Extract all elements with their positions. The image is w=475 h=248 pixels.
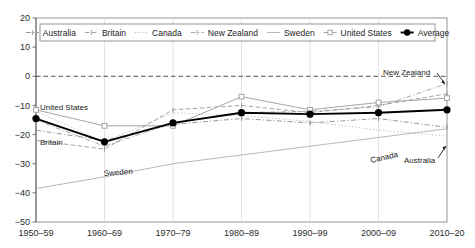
line-chart: 20100−10−20−30−40−501950–591960–691970–7… <box>0 0 475 248</box>
annotation-label: United States <box>40 103 88 112</box>
legend-marker <box>328 30 332 34</box>
y-tick-label: 20 <box>20 13 30 23</box>
legend-item-australia[interactable]: Australia <box>26 28 76 38</box>
x-tick-label: 1960–69 <box>87 228 122 238</box>
y-tick-label: 10 <box>20 42 30 52</box>
legend: AustraliaBritainCanadaNew ZealandSwedenU… <box>26 24 450 41</box>
x-tick-label: 2010–20 <box>429 228 464 238</box>
data-point <box>238 109 245 116</box>
legend-label: Canada <box>152 28 182 38</box>
y-tick-label: −20 <box>15 130 30 140</box>
chart-container: 20100−10−20−30−40−501950–591960–691970–7… <box>0 0 475 248</box>
annotation-label: Australia <box>404 156 436 165</box>
x-tick-label: 1990–99 <box>292 228 327 238</box>
data-point <box>102 123 107 128</box>
data-point <box>443 106 450 113</box>
x-tick-label: 1970–79 <box>155 228 190 238</box>
x-tick-label: 1980–89 <box>224 228 259 238</box>
legend-label: Britain <box>102 28 126 38</box>
legend-label: United States <box>341 28 392 38</box>
data-point <box>169 119 176 126</box>
data-point <box>32 115 39 122</box>
y-tick-label: −10 <box>15 101 30 111</box>
x-axis-ticks: 1950–591960–691970–791980–891990–992000–… <box>18 228 464 238</box>
y-tick-label: 0 <box>25 71 30 81</box>
x-tick-label: 1950–59 <box>18 228 53 238</box>
y-tick-label: −40 <box>15 188 30 198</box>
data-point <box>376 100 381 105</box>
data-point <box>375 109 382 116</box>
y-tick-label: −30 <box>15 159 30 169</box>
legend-label: Average <box>418 28 450 38</box>
data-point <box>34 107 39 112</box>
y-tick-label: −50 <box>15 217 30 227</box>
legend-marker <box>404 29 410 35</box>
data-point <box>306 111 313 118</box>
legend-label: New Zealand <box>208 28 258 38</box>
data-point <box>445 96 450 101</box>
legend-label: Sweden <box>284 28 315 38</box>
legend-label: Australia <box>43 28 76 38</box>
annotation-label: Britain <box>40 138 63 147</box>
x-tick-label: 2000–09 <box>361 228 396 238</box>
data-point <box>239 94 244 99</box>
annotation-label: New Zealand <box>383 68 430 77</box>
data-point <box>101 138 108 145</box>
